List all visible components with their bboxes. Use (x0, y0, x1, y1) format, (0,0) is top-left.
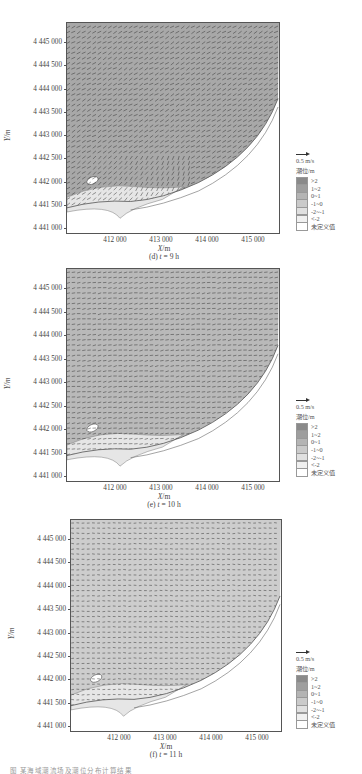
legend-title: 潮位/m (296, 166, 335, 175)
y-tick-label: 4 444 000 (2, 85, 62, 93)
plot-area (70, 519, 282, 732)
legend: 0.5 m/s潮位/m>21~20~1-1~0-2~-1<-2未定义值 (296, 398, 335, 476)
legend-label: >2 (311, 423, 318, 430)
x-tick-label: 414 000 (187, 236, 227, 244)
y-tick-label: 4 442 500 (2, 402, 62, 410)
y-tick-label: 4 441 500 (6, 699, 66, 707)
x-tick-label: 413 000 (145, 734, 185, 742)
legend-swatch (296, 222, 308, 230)
x-tick-label: 415 000 (233, 236, 273, 244)
legend-label: 未定义值 (311, 222, 335, 231)
y-tick-label: 4 444 500 (2, 61, 62, 69)
x-tick-label: 413 000 (141, 236, 181, 244)
scale-arrow-icon (296, 650, 310, 655)
legend-label: 1~2 (311, 683, 321, 690)
legend-label: 未定义值 (311, 468, 335, 477)
legend-label: -1~0 (311, 446, 323, 453)
vector-field (67, 269, 279, 481)
legend-item: 未定义值 (296, 223, 335, 231)
scale-arrow-icon (296, 152, 310, 157)
y-tick-label: 4 443 500 (6, 605, 66, 613)
legend-item: 未定义值 (296, 469, 335, 477)
figure-footnote: 图 某海域潮流场及潮位分布计算结果 (10, 765, 132, 774)
y-tick-label: 4 441 500 (2, 201, 62, 209)
y-tick-label: 4 441 500 (2, 449, 62, 457)
legend-label: -2~-1 (311, 706, 325, 713)
y-tick-label: 4 442 000 (2, 425, 62, 433)
legend-label: >2 (311, 177, 318, 184)
y-tick-label: 4 444 500 (6, 558, 66, 566)
sea-region (67, 269, 279, 456)
legend-label: 1~2 (311, 431, 321, 438)
y-tick-label: 4 442 500 (2, 154, 62, 162)
x-tick-label: 414 000 (187, 484, 227, 492)
legend-swatch (296, 468, 308, 476)
y-tick-label: 4 442 000 (2, 178, 62, 186)
x-tick-label: 415 000 (237, 734, 277, 742)
plot-area (66, 22, 280, 234)
legend: 0.5 m/s潮位/m>21~20~1-1~0-2~-1<-2未定义值 (296, 650, 335, 728)
panel-caption: (f) t = 11 h (106, 750, 226, 759)
vector-field (71, 520, 281, 731)
y-tick-label: 4 444 000 (2, 331, 62, 339)
y-tick-label: 4 443 500 (2, 355, 62, 363)
y-tick-label: 4 443 000 (6, 629, 66, 637)
x-tick-label: 413 000 (141, 484, 181, 492)
plot-area (66, 268, 280, 482)
sea-region (71, 520, 281, 706)
legend-label: -2~-1 (311, 454, 325, 461)
legend-label: 0~1 (311, 690, 321, 697)
vector-field (67, 23, 279, 233)
x-tick-label: 412 000 (95, 236, 135, 244)
legend: 0.5 m/s潮位/m>21~20~1-1~0-2~-1<-2未定义值 (296, 152, 335, 230)
panel-e: Y/m 4 445 0004 444 5004 444 0004 443 500… (0, 248, 362, 508)
y-tick-label: 4 444 500 (2, 308, 62, 316)
legend-label: 0~1 (311, 438, 321, 445)
y-tick-label: 4 445 000 (6, 535, 66, 543)
y-tick-label: 4 442 000 (6, 675, 66, 683)
legend-title: 潮位/m (296, 664, 335, 673)
y-tick-label: 4 445 000 (2, 38, 62, 46)
y-tick-label: 4 441 000 (6, 722, 66, 730)
legend-label: -1~0 (311, 698, 323, 705)
legend-label: 0~1 (311, 192, 321, 199)
legend-swatch (296, 720, 308, 728)
panel-d: Y/m 4 445 0004 444 5004 444 0004 443 500… (0, 0, 362, 260)
legend-label: >2 (311, 675, 318, 682)
y-tick-label: 4 443 000 (2, 378, 62, 386)
scale-label: 0.5 m/s (296, 655, 335, 662)
legend-label: -1~0 (311, 200, 323, 207)
panel-f: Y/m 4 445 0004 444 5004 444 0004 443 500… (0, 498, 362, 758)
legend-label: 1~2 (311, 185, 321, 192)
legend-title: 潮位/m (296, 412, 335, 421)
y-tick-label: 4 445 000 (2, 284, 62, 292)
legend-label: 未定义值 (311, 720, 335, 729)
y-tick-label: 4 441 000 (2, 472, 62, 480)
y-tick-label: 4 443 000 (2, 131, 62, 139)
y-tick-label: 4 442 500 (6, 652, 66, 660)
y-tick-label: 4 443 500 (2, 108, 62, 116)
legend-item: 未定义值 (296, 721, 335, 729)
legend-label: -2~-1 (311, 208, 325, 215)
scale-label: 0.5 m/s (296, 403, 335, 410)
scale-label: 0.5 m/s (296, 157, 335, 164)
x-tick-label: 412 000 (99, 734, 139, 742)
x-tick-label: 415 000 (233, 484, 273, 492)
y-tick-label: 4 444 000 (6, 582, 66, 590)
y-tick-label: 4 441 000 (2, 224, 62, 232)
scale-arrow-icon (296, 398, 310, 403)
x-tick-label: 412 000 (95, 484, 135, 492)
x-tick-label: 414 000 (191, 734, 231, 742)
